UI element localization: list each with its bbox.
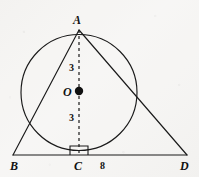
label-point-d: D	[180, 160, 189, 172]
label-point-c: C	[74, 160, 82, 172]
geometry-canvas	[0, 0, 199, 177]
center-point-dot	[75, 87, 83, 95]
label-point-b: B	[10, 160, 18, 172]
label-point-a: A	[73, 14, 81, 26]
segment-ad	[79, 30, 187, 155]
geometry-figure: A B C D O 3 3 8	[0, 0, 199, 177]
label-base-segment-8: 8	[100, 161, 105, 171]
label-point-o: O	[63, 86, 72, 98]
label-lower-radius-3: 3	[69, 113, 74, 123]
label-upper-radius-3: 3	[69, 63, 74, 73]
